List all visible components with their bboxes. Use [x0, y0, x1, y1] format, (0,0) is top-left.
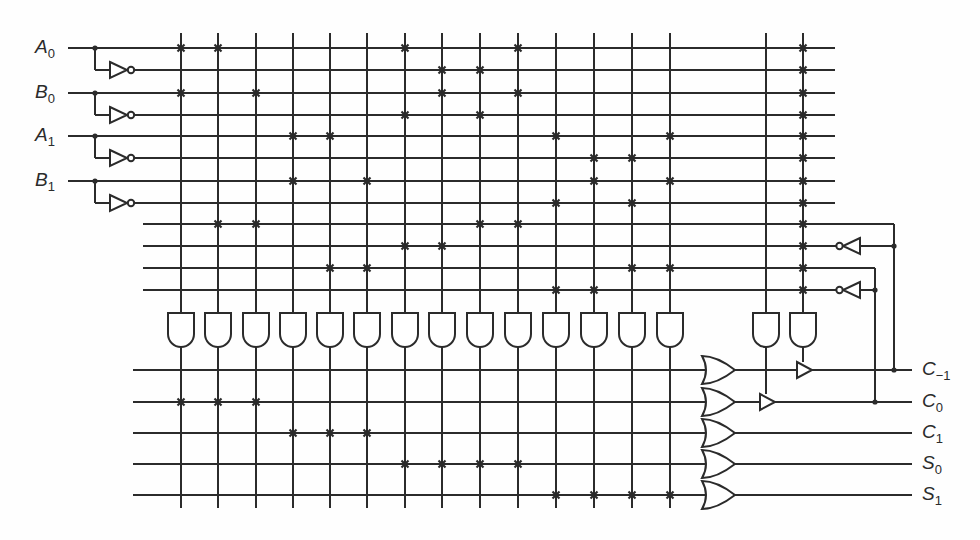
inverter-bubble — [128, 112, 134, 118]
and-gate-icon — [280, 313, 306, 347]
and-gate-icon — [205, 313, 231, 347]
signal-subscript: 1 — [48, 134, 55, 149]
inverter-bubble — [836, 243, 842, 249]
and-gate-icon — [392, 313, 418, 347]
and-gate-icon — [543, 313, 569, 347]
output-label: C1 — [922, 422, 943, 445]
inverter-icon — [843, 282, 860, 298]
input-label: A1 — [35, 125, 55, 148]
signal-name: S — [922, 483, 935, 504]
signal-name: S — [922, 452, 935, 473]
and-gate-icon — [753, 313, 779, 347]
signal-subscript: 0 — [936, 400, 943, 415]
tristate-buffer-icon — [760, 394, 775, 410]
pla-diagram: A0B0A1B1C−1C0C1S0S1 — [0, 0, 980, 540]
and-gate-icon — [505, 313, 531, 347]
and-gate-icon — [243, 313, 269, 347]
inverter-bubble — [128, 200, 134, 206]
inverter-icon — [110, 150, 127, 166]
input-label: B0 — [35, 82, 55, 105]
inverter-icon — [110, 195, 127, 211]
tristate-buffer-icon — [797, 362, 812, 378]
inverter-icon — [843, 238, 860, 254]
signal-name: C — [922, 421, 936, 442]
or-gate-icon — [702, 419, 735, 447]
signal-name: A — [35, 36, 48, 57]
input-label: A0 — [35, 37, 55, 60]
signal-name: C — [922, 358, 936, 379]
signal-subscript: 1 — [48, 179, 55, 194]
inverter-bubble — [128, 155, 134, 161]
and-gate-icon — [429, 313, 455, 347]
inverter-icon — [110, 62, 127, 78]
output-label: S1 — [922, 484, 942, 507]
or-gate-icon — [702, 450, 735, 478]
output-label: C0 — [922, 391, 943, 414]
and-gate-icon — [317, 313, 343, 347]
inverter-bubble — [836, 287, 842, 293]
inverter-icon — [110, 107, 127, 123]
pla-schematic — [0, 0, 980, 540]
signal-subscript: 0 — [48, 46, 55, 61]
or-gate-icon — [702, 356, 735, 384]
signal-subscript: 1 — [935, 493, 942, 508]
and-gate-icon — [790, 313, 816, 347]
signal-name: B — [35, 169, 48, 190]
signal-name: B — [35, 81, 48, 102]
signal-name: C — [922, 390, 936, 411]
and-gate-icon — [467, 313, 493, 347]
signal-subscript: 1 — [936, 431, 943, 446]
signal-subscript: −1 — [936, 368, 951, 383]
output-label: S0 — [922, 453, 942, 476]
inverter-bubble — [128, 67, 134, 73]
signal-name: A — [35, 124, 48, 145]
and-gate-icon — [581, 313, 607, 347]
and-gate-icon — [619, 313, 645, 347]
input-label: B1 — [35, 170, 55, 193]
and-gate-icon — [657, 313, 683, 347]
signal-subscript: 0 — [935, 462, 942, 477]
or-gate-icon — [702, 388, 735, 416]
and-gate-icon — [354, 313, 380, 347]
signal-subscript: 0 — [48, 91, 55, 106]
output-label: C−1 — [922, 359, 951, 382]
and-gate-icon — [168, 313, 194, 347]
or-gate-icon — [702, 481, 735, 509]
